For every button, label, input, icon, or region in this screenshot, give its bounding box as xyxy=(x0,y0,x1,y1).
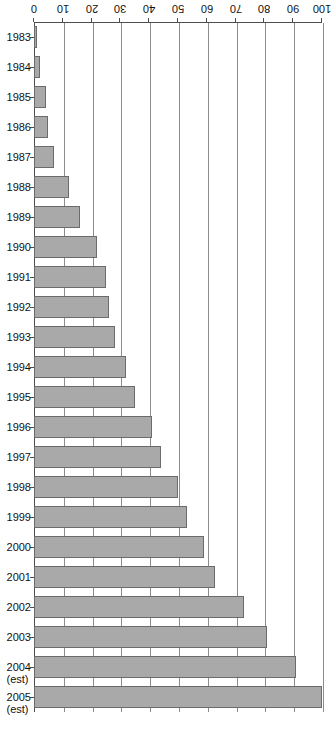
value-tick-label: 70 xyxy=(229,3,241,15)
bar-slot xyxy=(34,596,322,618)
category-label: 1997 xyxy=(7,451,31,463)
bar-slot xyxy=(34,56,322,78)
value-tick-label: 50 xyxy=(172,3,184,15)
category-label: 1983 xyxy=(7,31,31,43)
bar[interactable] xyxy=(34,566,215,588)
bar[interactable] xyxy=(34,56,40,78)
bar[interactable] xyxy=(34,656,296,678)
bar-slot xyxy=(34,386,322,408)
category-label-year: 1996 xyxy=(7,421,31,433)
category-label-year: 1991 xyxy=(7,271,31,283)
bar-slot xyxy=(34,626,322,648)
category-label: 2000 xyxy=(7,541,31,553)
category-label: 1991 xyxy=(7,271,31,283)
bar[interactable] xyxy=(34,86,46,108)
bar[interactable] xyxy=(34,596,244,618)
value-tick-label: 90 xyxy=(287,3,299,15)
category-label-year: 1986 xyxy=(7,121,31,133)
category-label-year: 1992 xyxy=(7,301,31,313)
value-tick-mark xyxy=(235,18,236,22)
category-label-year: 1984 xyxy=(7,61,31,73)
bar-slot xyxy=(34,146,322,168)
bar[interactable] xyxy=(34,356,126,378)
bar-slot xyxy=(34,416,322,438)
value-tick-mark xyxy=(91,18,92,22)
category-label: 2005(est) xyxy=(7,691,31,715)
bar-slot xyxy=(34,86,322,108)
bar[interactable] xyxy=(34,326,115,348)
category-label: 1999 xyxy=(7,511,31,523)
value-tick-mark xyxy=(292,18,293,22)
value-tick-label: 40 xyxy=(143,3,155,15)
bar-slot xyxy=(34,656,322,678)
category-label-year: 2004 xyxy=(7,661,31,673)
category-label: 2002 xyxy=(7,601,31,613)
category-label: 1984 xyxy=(7,61,31,73)
category-label-year: 1985 xyxy=(7,91,31,103)
category-label: 1988 xyxy=(7,181,31,193)
bar-slot xyxy=(34,686,322,708)
category-label: 1986 xyxy=(7,121,31,133)
bar[interactable] xyxy=(34,206,80,228)
category-label: 2004(est) xyxy=(7,661,31,685)
value-tick-label: 20 xyxy=(85,3,97,15)
bar[interactable] xyxy=(34,266,106,288)
category-label-year: 1999 xyxy=(7,511,31,523)
category-label-year: 1998 xyxy=(7,481,31,493)
category-label-year: 1988 xyxy=(7,181,31,193)
bar[interactable] xyxy=(34,296,109,318)
category-label: 1994 xyxy=(7,361,31,373)
category-label-year: 1983 xyxy=(7,31,31,43)
bar-slot xyxy=(34,356,322,378)
category-label: 1985 xyxy=(7,91,31,103)
category-label-year: 2002 xyxy=(7,601,31,613)
bar[interactable] xyxy=(34,506,187,528)
value-tick-mark xyxy=(321,18,322,22)
bar-slot xyxy=(34,446,322,468)
category-label-year: 1995 xyxy=(7,391,31,403)
category-label: 1993 xyxy=(7,331,31,343)
category-label: 1996 xyxy=(7,421,31,433)
category-label-year: 1989 xyxy=(7,211,31,223)
bar[interactable] xyxy=(34,236,97,258)
bar[interactable] xyxy=(34,416,152,438)
bar[interactable] xyxy=(34,446,161,468)
category-label: 1989 xyxy=(7,211,31,223)
category-label-year: 1990 xyxy=(7,241,31,253)
category-label-year: 1997 xyxy=(7,451,31,463)
value-tick-label: 30 xyxy=(114,3,126,15)
bar-slot xyxy=(34,116,322,138)
value-tick-mark xyxy=(263,18,264,22)
category-label: 1987 xyxy=(7,151,31,163)
bar[interactable] xyxy=(34,26,37,48)
value-tick-mark xyxy=(148,18,149,22)
value-tick-label: 10 xyxy=(57,3,69,15)
bar[interactable] xyxy=(34,116,48,138)
category-label: 2001 xyxy=(7,571,31,583)
value-tick-mark xyxy=(177,18,178,22)
bar-chart-figure: 1009080706050403020100 19831984198519861… xyxy=(0,0,331,730)
category-label-year: 2000 xyxy=(7,541,31,553)
category-label-year: 2003 xyxy=(7,631,31,643)
category-label-note: (est) xyxy=(7,673,31,685)
category-label-year: 2001 xyxy=(7,571,31,583)
category-label: 1995 xyxy=(7,391,31,403)
bar-slot xyxy=(34,506,322,528)
value-tick-label: 80 xyxy=(258,3,270,15)
value-tick-label: 0 xyxy=(31,3,37,15)
bar[interactable] xyxy=(34,146,54,168)
bar[interactable] xyxy=(34,536,204,558)
bar[interactable] xyxy=(34,386,135,408)
category-label-year: 1987 xyxy=(7,151,31,163)
bar-slot xyxy=(34,566,322,588)
category-label: 2003 xyxy=(7,631,31,643)
bar-slot xyxy=(34,236,322,258)
bar-slot xyxy=(34,176,322,198)
bar-slot xyxy=(34,536,322,558)
bar[interactable] xyxy=(34,176,69,198)
value-tick-mark xyxy=(206,18,207,22)
bar[interactable] xyxy=(34,686,322,708)
bar-slot xyxy=(34,326,322,348)
bar[interactable] xyxy=(34,476,178,498)
bar[interactable] xyxy=(34,626,267,648)
